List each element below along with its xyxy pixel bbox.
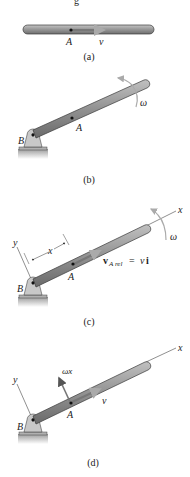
label-y-axis: y: [12, 237, 18, 248]
x-axis-line: [146, 348, 176, 362]
label-a: A: [66, 409, 74, 420]
label-v: v: [99, 36, 104, 47]
label-a: A: [65, 36, 73, 47]
panel-c: x y x ω A B v A rel = v i (c): [12, 204, 183, 328]
label-b: B: [18, 135, 24, 146]
label-a: A: [75, 122, 83, 133]
label-x-axis: x: [177, 342, 183, 353]
panel-a: A v (a): [23, 25, 154, 63]
point-a-dot: [70, 116, 73, 119]
caption-b: (b): [83, 174, 95, 186]
svg-text:v: v: [103, 255, 108, 266]
point-a-dot: [69, 401, 72, 404]
svg-text:v: v: [140, 255, 145, 266]
label-y-axis: y: [12, 374, 18, 385]
label-omega: ω: [140, 97, 147, 108]
panel-b: ω A B (b): [18, 78, 150, 186]
svg-text:i: i: [146, 255, 149, 266]
caption-c: (c): [83, 316, 94, 328]
y-axis-line: [17, 384, 32, 418]
transverse-velocity-arrow-icon: [59, 378, 71, 404]
caption-d: (d): [87, 457, 99, 469]
rotating-bar: [33, 80, 150, 138]
label-x-axis: x: [177, 204, 183, 215]
label-omega: ω: [170, 231, 177, 242]
label-b: B: [17, 283, 23, 294]
rotating-bar-figure: g A v (a) ω A B (b) x y: [0, 0, 190, 477]
label-distance-x: x: [47, 245, 53, 256]
label-b: B: [17, 421, 23, 432]
label-v: v: [102, 395, 107, 406]
relative-velocity-equation: v A rel = v i: [103, 255, 149, 268]
svg-text:=: =: [129, 255, 135, 266]
label-a: A: [67, 271, 75, 282]
point-a-dot: [71, 262, 74, 265]
angular-velocity-arrow-icon: [151, 209, 166, 240]
top-text-fragment: g: [74, 0, 79, 6]
point-a-dot: [69, 28, 72, 31]
svg-text:A rel: A rel: [108, 260, 122, 268]
panel-d: x y ωx v A B (d): [12, 342, 183, 469]
caption-a: (a): [83, 51, 94, 63]
y-axis-line: [17, 247, 32, 281]
label-omega-x: ωx: [62, 366, 72, 376]
